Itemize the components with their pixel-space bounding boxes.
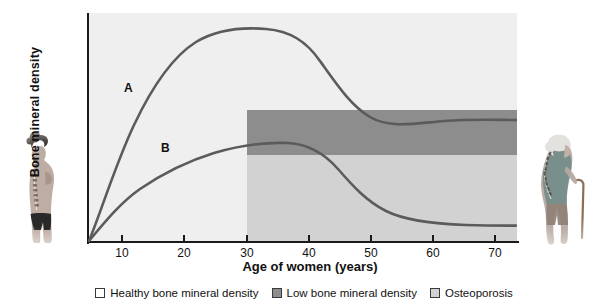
- curve-label-b: B: [161, 141, 170, 155]
- legend-label-healthy: Healthy bone mineral density: [110, 287, 258, 299]
- x-tick-label-10: 10: [107, 246, 137, 260]
- x-tick-70: [494, 235, 496, 242]
- legend-item-low[interactable]: Low bone mineral density: [272, 287, 417, 299]
- elderly-woman-icon: [519, 118, 607, 248]
- young-woman-figure: [4, 128, 84, 248]
- legend-item-healthy[interactable]: Healthy bone mineral density: [95, 287, 258, 299]
- legend-label-osteoporosis: Osteoporosis: [445, 287, 513, 299]
- x-tick-30: [246, 235, 248, 242]
- x-tick-label-30: 30: [232, 246, 262, 260]
- young-woman-icon: [4, 128, 84, 248]
- x-tick-20: [183, 235, 185, 242]
- y-axis-title: Bone mineral density: [28, 32, 42, 192]
- x-tick-label-20: 20: [169, 246, 199, 260]
- curve-layer: [88, 13, 517, 242]
- curve-a-path: [89, 28, 516, 241]
- curve-label-a: A: [124, 81, 133, 95]
- x-axis-title: Age of women (years): [180, 259, 440, 274]
- figure-root: A B 10 20 30 40 50 60 70 Bone mineral de…: [0, 0, 608, 307]
- x-tick-label-70: 70: [480, 246, 510, 260]
- x-tick-50: [370, 235, 372, 242]
- curve-b-path: [89, 143, 516, 241]
- x-tick-60: [432, 235, 434, 242]
- legend-swatch-low: [272, 288, 282, 298]
- elderly-woman-figure: [519, 118, 607, 248]
- x-tick-10: [121, 235, 123, 242]
- x-tick-label-50: 50: [356, 246, 386, 260]
- x-tick-40: [308, 235, 310, 242]
- x-tick-label-40: 40: [294, 246, 324, 260]
- legend-swatch-osteoporosis: [430, 288, 440, 298]
- legend-item-osteoporosis[interactable]: Osteoporosis: [430, 287, 513, 299]
- legend-label-low: Low bone mineral density: [287, 287, 417, 299]
- legend-swatch-healthy: [95, 288, 105, 298]
- legend: Healthy bone mineral density Low bone mi…: [0, 287, 608, 299]
- x-tick-label-60: 60: [418, 246, 448, 260]
